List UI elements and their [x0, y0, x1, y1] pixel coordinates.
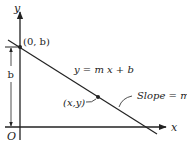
general-point	[96, 95, 100, 99]
x-axis-label: x	[171, 121, 178, 134]
general-point-label: (x,y)	[63, 97, 85, 108]
y-axis-label: y	[13, 2, 21, 15]
slope-intercept-diagram: y x O (0, b) b y = m x + b (x,y) Slope =…	[0, 0, 187, 152]
general-point-leader	[86, 99, 96, 102]
line-y-mx-b	[8, 40, 157, 134]
equation-label: y = m x + b	[73, 64, 134, 75]
origin-label: O	[7, 130, 16, 143]
slope-leader	[119, 96, 132, 107]
b-dimension-label: b	[8, 69, 14, 80]
intercept-label: (0, b)	[23, 36, 50, 47]
slope-label: Slope = m	[137, 90, 187, 101]
